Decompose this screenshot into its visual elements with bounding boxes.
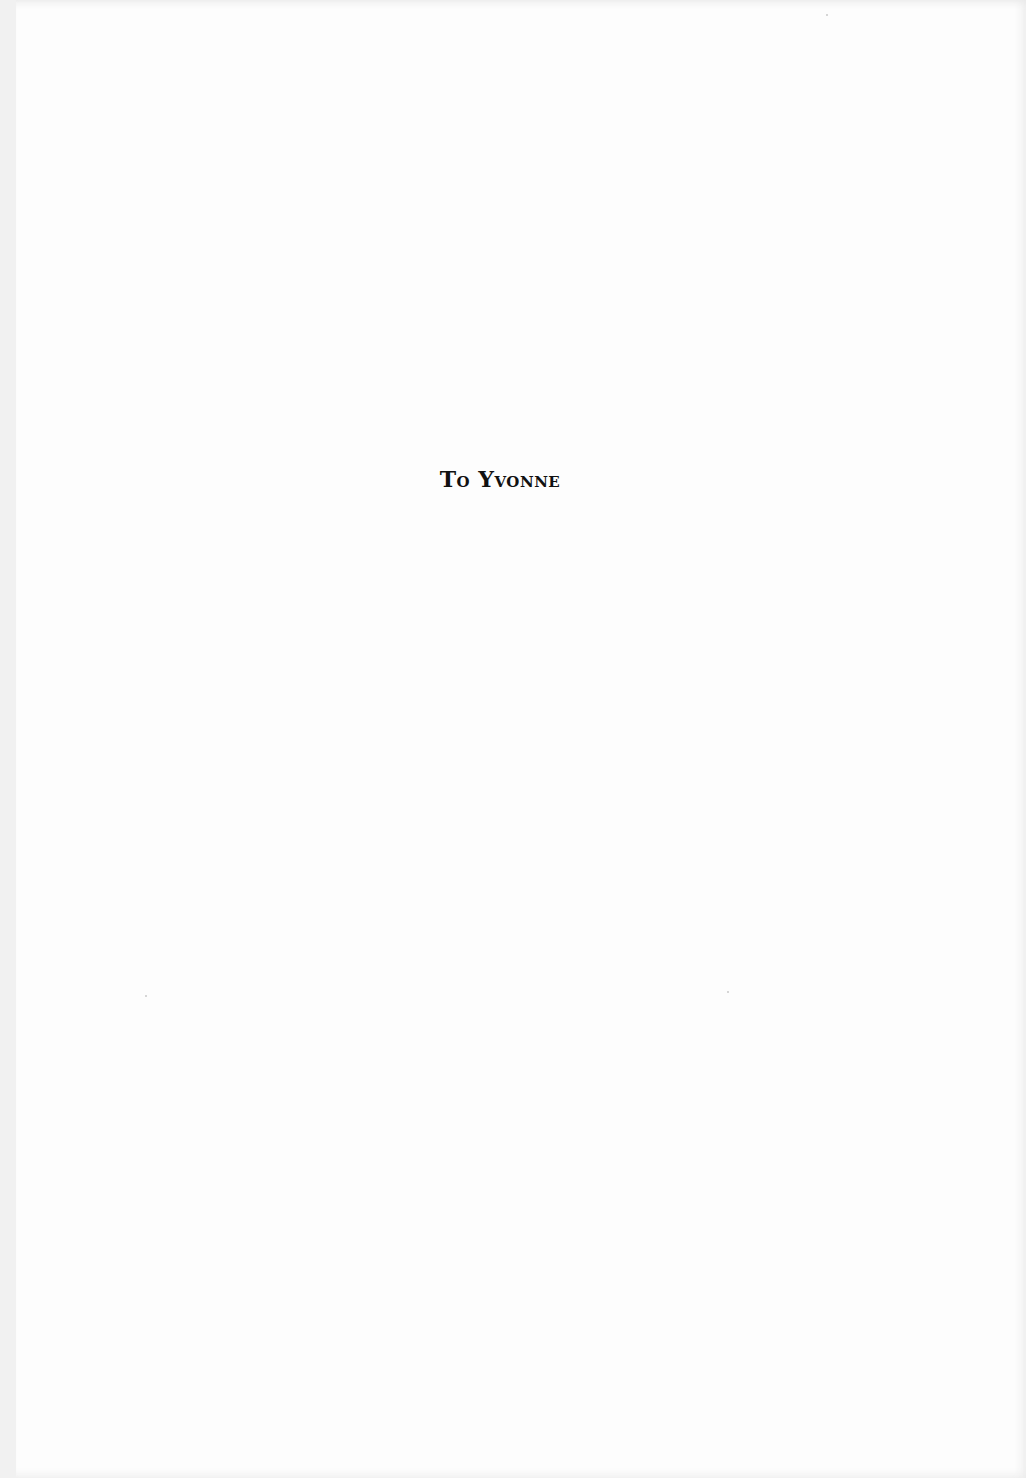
page-edge-shadow [0, 0, 16, 1478]
scanned-page: To Yvonne [0, 0, 1026, 1478]
scan-speck [826, 14, 828, 16]
dedication-text: To Yvonne [0, 466, 1000, 492]
scan-speck [145, 995, 147, 997]
scan-speck [727, 991, 729, 993]
